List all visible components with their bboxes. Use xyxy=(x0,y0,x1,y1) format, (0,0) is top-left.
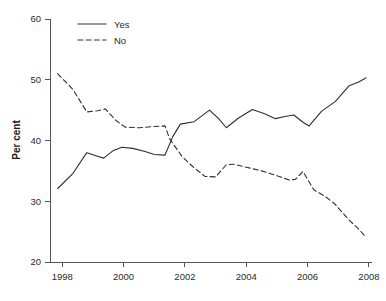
series-line-no xyxy=(58,74,366,237)
x-tick-label: 2006 xyxy=(297,271,318,282)
y-axis-title: Per cent xyxy=(11,120,22,160)
y-tick-label: 30 xyxy=(30,196,41,207)
y-tick-label: 50 xyxy=(30,74,41,85)
line-chart: 2030405060 199820002002200420062008 YesN… xyxy=(0,0,386,301)
x-tick-label: 2000 xyxy=(113,271,134,282)
legend-label-yes: Yes xyxy=(114,19,130,30)
y-tick-label: 20 xyxy=(30,256,41,267)
chart-canvas: 2030405060 199820002002200420062008 YesN… xyxy=(0,0,386,301)
chart-legend: YesNo xyxy=(78,19,130,46)
x-tick-label: 1998 xyxy=(52,271,73,282)
series-line-yes xyxy=(58,78,366,189)
x-axis-ticks: 199820002002200420062008 xyxy=(52,262,380,282)
x-tick-label: 2004 xyxy=(236,271,257,282)
axes xyxy=(50,19,372,262)
legend-label-no: No xyxy=(114,35,126,46)
data-series-group xyxy=(58,74,366,237)
y-tick-label: 40 xyxy=(30,135,41,146)
y-axis-ticks: 2030405060 xyxy=(30,13,50,267)
y-tick-label: 60 xyxy=(30,13,41,24)
x-tick-label: 2008 xyxy=(358,271,379,282)
x-tick-label: 2002 xyxy=(174,271,195,282)
